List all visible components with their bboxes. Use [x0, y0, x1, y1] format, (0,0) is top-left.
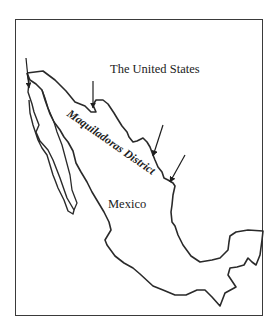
map-figure: The United States Maquiladoras District … — [0, 0, 279, 333]
label-united-states: The United States — [110, 62, 200, 77]
label-mexico: Mexico — [108, 197, 146, 212]
arrow-juarez-east — [153, 125, 163, 156]
baja-california-outline — [27, 73, 74, 214]
arrow-matamoros — [170, 155, 185, 182]
mexico-border-outline — [27, 71, 263, 306]
